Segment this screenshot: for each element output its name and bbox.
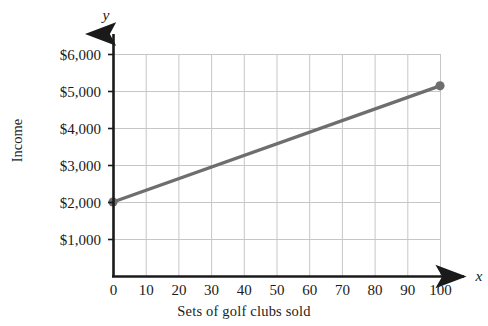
x-tick-label: 50 [270,282,285,298]
x-tick-label: 40 [237,282,252,298]
y-tick-labels: $6,000 $5,000 $4,000 $3,000 $2,000 $1,00… [60,47,101,248]
chart-figure: $6,000 $5,000 $4,000 $3,000 $2,000 $1,00… [0,0,488,326]
x-tick-label: 0 [110,282,118,298]
chart-canvas: $6,000 $5,000 $4,000 $3,000 $2,000 $1,00… [0,0,488,326]
axes [112,34,464,277]
x-tick-labels: 0 10 20 30 40 50 60 70 80 90 100 [110,282,452,298]
x-tick-label: 30 [204,282,219,298]
x-tick-label: 90 [400,282,415,298]
y-axis-title-container: Income [0,0,36,280]
y-axis-title: Income [10,118,27,161]
x-axis-title: Sets of golf clubs sold [0,303,488,320]
y-tick-label: $2,000 [60,195,101,211]
x-axis-symbol: x [475,267,483,284]
x-tick-label: 60 [302,282,317,298]
x-tick-label: 20 [171,282,186,298]
x-tick-label: 10 [139,282,154,298]
grid-lines [113,54,441,276]
data-point-end [435,81,444,90]
x-tick-label: 70 [335,282,350,298]
y-tick-label: $1,000 [60,232,101,248]
x-tick-label: 100 [429,282,452,298]
y-tick-label: $6,000 [60,47,101,63]
y-tick-label: $4,000 [60,121,101,137]
y-tick-label: $3,000 [60,158,101,174]
x-tick-label: 80 [368,282,383,298]
y-axis-symbol: y [101,6,110,23]
y-tick-label: $5,000 [60,84,101,100]
